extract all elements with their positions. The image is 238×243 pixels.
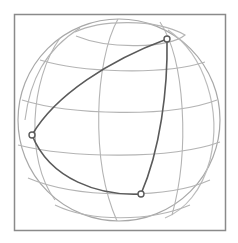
vertex-b xyxy=(29,132,35,138)
triangle-edge-ca xyxy=(141,39,167,194)
diagram-frame xyxy=(15,15,226,231)
vertex-a xyxy=(164,36,170,42)
vertex-c xyxy=(138,191,144,197)
spherical-triangle xyxy=(32,39,167,194)
diagram-canvas xyxy=(0,0,238,243)
sphere-outline xyxy=(18,19,220,221)
spherical-triangle-diagram xyxy=(0,0,238,243)
triangle-edge-ab xyxy=(32,39,167,135)
